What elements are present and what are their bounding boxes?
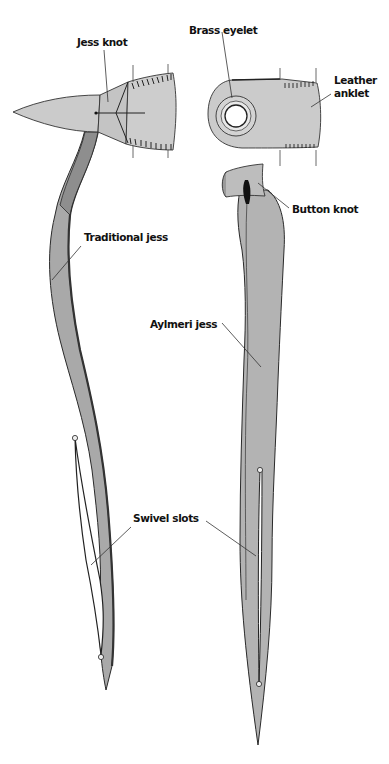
label-jess-knot: Jess knot	[77, 36, 127, 48]
traditional-jess-illustration	[13, 64, 176, 690]
traditional-jess-strap	[50, 130, 114, 690]
label-button-knot: Button knot	[292, 203, 358, 215]
jess-diagram: Jess knot Brass eyelet Leather anklet Bu…	[0, 0, 389, 764]
label-aylmeri-jess: Aylmeri jess	[150, 318, 217, 330]
brass-eyelet-hole	[225, 105, 247, 127]
label-leather-anklet-line2: anklet	[334, 87, 369, 99]
label-traditional-jess: Traditional jess	[84, 231, 168, 243]
label-leather-anklet-line1: Leather	[334, 74, 377, 86]
traditional-anklet-point	[13, 95, 100, 132]
label-swivel-slots: Swivel slots	[133, 512, 199, 524]
traditional-anklet-body	[126, 73, 176, 150]
aylmeri-jess-illustration	[208, 68, 321, 745]
label-brass-eyelet: Brass eyelet	[189, 24, 257, 36]
